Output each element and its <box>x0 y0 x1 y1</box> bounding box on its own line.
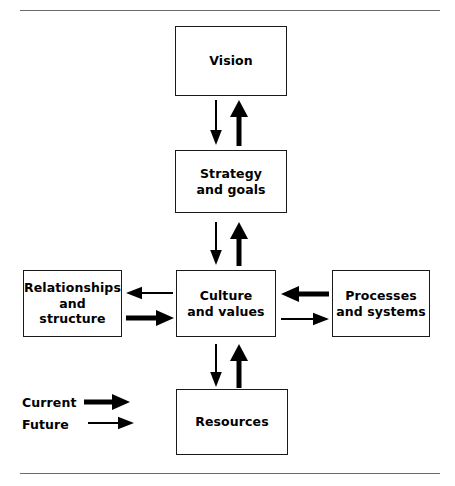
arrow-strategy-to-vision-current-up-icon <box>228 100 250 146</box>
node-processes-and-systems: Processes and systems <box>332 270 430 337</box>
node-vision-label: Vision <box>209 53 253 69</box>
arrow-culture-to-resources-future-down-icon <box>206 344 226 388</box>
legend-item-current: Current <box>22 392 152 414</box>
diagram-canvas: Vision Strategy and goals Culture and va… <box>0 0 455 486</box>
arrow-processes-to-culture-current-left-icon <box>281 284 329 304</box>
legend-current-label: Current <box>22 395 76 410</box>
arrow-resources-to-culture-current-up-icon <box>228 344 250 388</box>
legend-future-label: Future <box>22 417 69 432</box>
node-vision: Vision <box>175 26 287 96</box>
node-strategy-and-goals: Strategy and goals <box>175 150 287 213</box>
legend-current-arrow-icon <box>84 392 130 416</box>
node-processes-and-systems-label: Processes and systems <box>336 288 426 319</box>
arrow-culture-to-strategy-current-up-icon <box>228 222 250 266</box>
node-relationships-and-structure-label: Relationships and structure <box>24 280 121 327</box>
arrow-culture-to-processes-future-right-icon <box>281 310 329 328</box>
arrow-culture-to-relationships-future-left-icon <box>126 284 174 302</box>
node-culture-and-values-label: Culture and values <box>187 288 264 319</box>
node-strategy-and-goals-label: Strategy and goals <box>196 166 265 197</box>
arrow-vision-to-strategy-future-down-icon <box>206 100 226 146</box>
node-resources-label: Resources <box>195 414 268 430</box>
node-culture-and-values: Culture and values <box>176 270 276 337</box>
arrow-relationships-to-culture-current-right-icon <box>126 308 174 328</box>
top-rule <box>20 10 440 11</box>
legend-future-arrow-icon <box>88 414 134 436</box>
node-resources: Resources <box>176 389 288 455</box>
arrow-strategy-to-culture-future-down-icon <box>206 222 226 266</box>
node-relationships-and-structure: Relationships and structure <box>23 270 122 337</box>
legend: Current Future <box>22 392 152 436</box>
legend-item-future: Future <box>22 414 152 436</box>
bottom-rule <box>20 473 440 474</box>
